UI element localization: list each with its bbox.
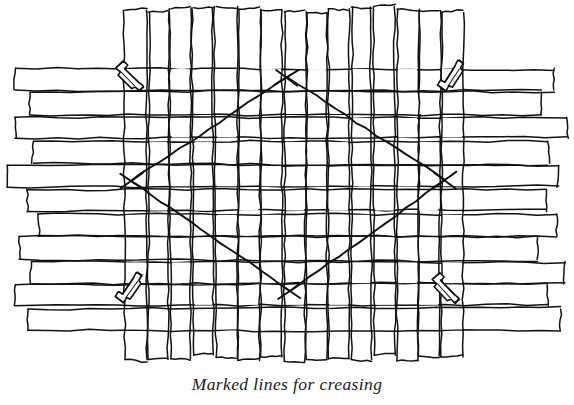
figure-root: Marked lines for creasing — [0, 0, 574, 405]
weave-illustration — [0, 0, 574, 405]
figure-caption: Marked lines for creasing — [0, 374, 574, 395]
